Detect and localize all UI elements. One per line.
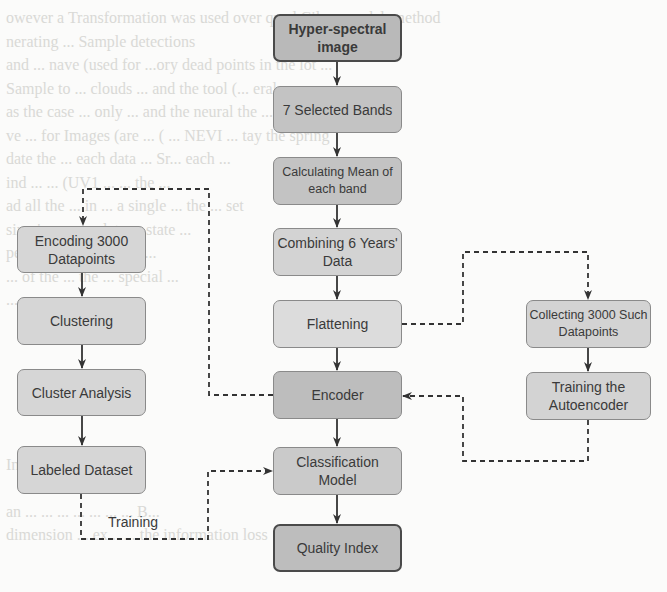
node-labeled-dataset: Labeled Dataset [17,446,146,494]
node-label: 7 Selected Bands [283,101,393,119]
node-encoding-3000-datapoints: Encoding 3000 Datapoints [17,226,146,273]
node-label: Flattening [307,315,368,333]
node-label: Quality Index [297,539,379,557]
node-label: Classification Model [276,453,399,489]
node-label: Encoding 3000 Datapoints [20,232,143,268]
node-classification-model: Classification Model [273,447,402,495]
node-quality-index: Quality Index [273,524,402,572]
node-label: Calculating Mean of each band [276,164,399,198]
node-hyperspectral-image: Hyper-spectral image [273,14,402,62]
node-calculating-mean: Calculating Mean of each band [273,157,402,205]
node-label: Labeled Dataset [31,461,133,479]
node-label: Encoder [311,386,363,404]
dashed-encoder-to-encoding [83,189,273,395]
node-flattening: Flattening [273,300,402,348]
node-encoder: Encoder [273,371,402,419]
node-label: Cluster Analysis [32,384,132,402]
node-label: Training the Autoencoder [529,378,648,414]
node-combining-years: Combining 6 Years' Data [273,228,402,276]
node-label: Combining 6 Years' Data [276,234,399,270]
node-collecting-3000-datapoints: Collecting 3000 Such Datapoints [526,300,651,348]
node-cluster-analysis: Cluster Analysis [17,369,146,416]
edge-label-training: Training [108,514,158,530]
node-clustering: Clustering [17,297,146,345]
node-training-autoencoder: Training the Autoencoder [526,372,651,420]
node-label: Collecting 3000 Such Datapoints [529,307,648,341]
node-selected-bands: 7 Selected Bands [273,86,402,133]
node-label: Hyper-spectral image [277,20,398,56]
node-label: Clustering [50,312,113,330]
